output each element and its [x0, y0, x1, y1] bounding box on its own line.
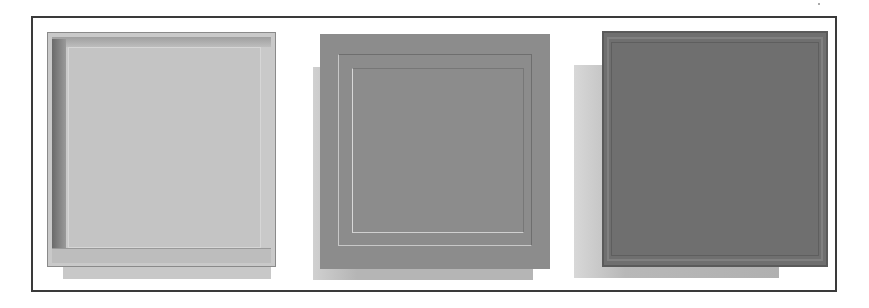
panel-1-face — [68, 47, 261, 248]
panel-medium-inset — [320, 34, 550, 269]
panel-light-beveled — [47, 32, 276, 267]
panel-1-top-bevel — [52, 37, 271, 47]
panel-1-shadow — [63, 265, 271, 279]
panel-1-bottom-lip — [52, 248, 271, 263]
panel-1-left-bevel — [52, 39, 66, 261]
panel-3-inner-trim — [611, 42, 819, 256]
panel-2-inner-rule — [352, 68, 524, 233]
panel-dark-textured — [602, 31, 828, 267]
speck — [818, 3, 820, 5]
